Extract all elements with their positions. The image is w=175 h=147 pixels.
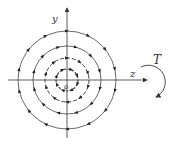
flow-arrow-icon [98, 86, 102, 91]
z-axis-label: z [129, 68, 136, 79]
y-axis-label: y [51, 13, 58, 24]
flow-arrow-icon [56, 111, 61, 115]
flow-arrow-icon [75, 82, 79, 87]
flow-arrow-icon [43, 122, 48, 127]
flow-arrow-icon [73, 45, 78, 49]
flow-arrow-icon [44, 71, 48, 76]
flow-arrow-icon [86, 34, 91, 39]
flow-arrow-icon [73, 111, 78, 115]
torque-arrow-icon [141, 65, 165, 97]
torque-label: T [153, 53, 162, 67]
origin-label: o [64, 83, 68, 91]
diagram-canvas: y z o T [0, 0, 175, 147]
flow-arrow-icon [43, 34, 48, 39]
flow-arrow-icon [55, 82, 59, 87]
flow-arrow-icon [69, 88, 74, 92]
flow-arrow-icon [86, 71, 90, 76]
flow-arrow-icon [56, 45, 61, 49]
flow-arrow-icon [86, 84, 90, 89]
flow-arrow-icon [98, 69, 102, 74]
flow-arrow-icon [17, 67, 21, 72]
flow-arrow-icon [86, 122, 91, 127]
flow-arrow-icon [32, 69, 36, 74]
flow-arrow-icon [113, 89, 117, 94]
flow-arrow-icon [32, 86, 36, 91]
